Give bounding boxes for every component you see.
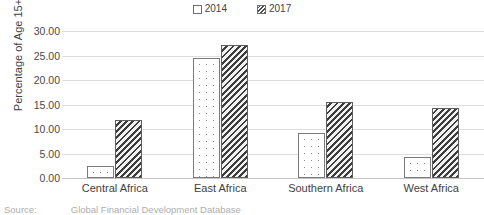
- x-tick-label: Central Africa: [62, 182, 168, 195]
- plot-area: 0.005.0010.0015.0020.0025.0030.00: [62, 31, 484, 178]
- x-axis-line: [62, 178, 484, 179]
- y-tick-label: 5.00: [4, 149, 60, 159]
- source-caption: Source: Global Financial Development Dat…: [4, 204, 474, 215]
- source-text: Global Financial Development Database: [71, 204, 241, 215]
- y-tick-label: 30.00: [4, 26, 60, 36]
- bar-chart: 2014 2017 Percentage of Age 15+ 0.005.00…: [0, 0, 484, 215]
- x-tick-label: Southern Africa: [273, 182, 379, 195]
- legend-item-2017: 2017: [257, 4, 291, 14]
- y-tick-label: 10.00: [4, 124, 60, 134]
- legend-swatch-2014-icon: [193, 5, 202, 14]
- legend-label-2014: 2014: [205, 4, 227, 14]
- x-tick-label: West Africa: [379, 182, 484, 195]
- legend-label-2017: 2017: [269, 4, 291, 14]
- legend-swatch-2017-icon: [257, 5, 266, 14]
- x-tick-label: East Africa: [168, 182, 274, 195]
- y-tick-label: 0.00: [4, 173, 60, 183]
- bar-2014-west-africa: [404, 157, 431, 178]
- y-axis-title: Percentage of Age 15+: [11, 0, 25, 135]
- bar-group: [62, 31, 484, 178]
- chart-legend: 2014 2017: [0, 1, 484, 17]
- source-label: Source:: [4, 204, 37, 215]
- legend-item-2014: 2014: [193, 4, 227, 14]
- y-tick-label: 15.00: [4, 100, 60, 110]
- bar-2017-west-africa: [432, 108, 459, 178]
- y-tick-label: 25.00: [4, 51, 60, 61]
- y-tick-label: 20.00: [4, 75, 60, 85]
